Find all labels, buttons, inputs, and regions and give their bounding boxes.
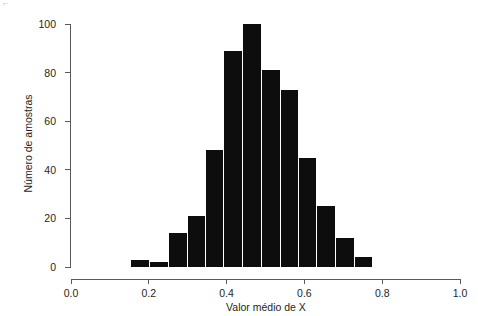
histogram-figure: ⌐ 020406080100 0.00.20.40.60.81.0 Valor …: [0, 0, 478, 316]
histogram-bar: [131, 260, 150, 267]
histogram-bar: [223, 51, 242, 267]
y-axis-tick-label: 0: [16, 262, 56, 273]
x-axis-line: [71, 279, 461, 280]
x-axis-tick-label: 0.2: [129, 288, 169, 299]
histogram-bar: [205, 150, 224, 267]
histogram-bar: [316, 206, 335, 267]
y-axis-tick: [65, 218, 70, 219]
x-axis-tick-label: 0.0: [51, 288, 91, 299]
y-axis-tick: [65, 24, 70, 25]
x-axis-tick-label: 0.8: [362, 288, 402, 299]
x-axis-tick: [304, 279, 305, 284]
histogram-bar: [280, 90, 299, 267]
y-axis-tick: [65, 169, 70, 170]
y-axis-tick: [65, 267, 70, 268]
y-axis-tick: [65, 121, 70, 122]
histogram-bar: [354, 257, 373, 267]
y-axis-tick-label: 100: [16, 19, 56, 30]
x-axis-tick-label: 0.6: [284, 288, 324, 299]
x-axis-tick: [71, 279, 72, 284]
histogram-bar: [298, 158, 316, 267]
histogram-bar: [242, 24, 261, 267]
x-axis-title: Valor médio de X: [71, 302, 461, 313]
x-axis-tick: [460, 279, 461, 284]
histogram-bar: [168, 233, 187, 267]
x-axis-tick: [226, 279, 227, 284]
x-axis-tick-label: 0.4: [207, 288, 247, 299]
x-axis-tick: [148, 279, 149, 284]
plot-area: 020406080100 0.00.20.40.60.81.0 Valor mé…: [0, 0, 478, 316]
x-axis-tick: [382, 279, 383, 284]
x-axis-tick-label: 1.0: [440, 288, 478, 299]
histogram-bar: [335, 238, 354, 267]
y-axis-title: Número de amostras: [23, 54, 34, 234]
y-axis-line: [70, 24, 71, 268]
histogram-bar: [187, 216, 205, 267]
y-axis-tick: [65, 72, 70, 73]
histogram-bar: [149, 262, 168, 267]
histogram-bar: [261, 70, 280, 267]
